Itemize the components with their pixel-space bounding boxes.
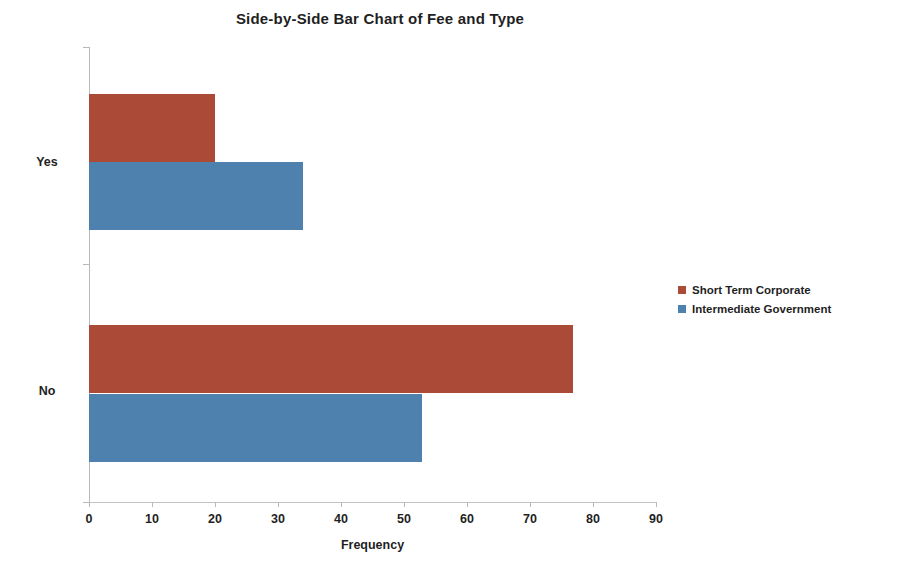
legend: Short Term Corporate Intermediate Govern… bbox=[678, 284, 831, 322]
chart-title: Side-by-Side Bar Chart of Fee and Type bbox=[0, 10, 760, 27]
bar-group-yes bbox=[89, 47, 655, 230]
x-axis-tick-label: 90 bbox=[636, 512, 676, 526]
x-axis-tick bbox=[152, 502, 153, 507]
x-axis-tick bbox=[404, 502, 405, 507]
bar-short-term-corporate-no[interactable] bbox=[89, 325, 573, 393]
bar-intermediate-government-yes[interactable] bbox=[89, 162, 303, 230]
x-axis-tick bbox=[89, 502, 90, 507]
legend-label: Intermediate Government bbox=[692, 303, 831, 315]
x-axis-tick bbox=[656, 502, 657, 507]
x-axis-tick-label: 80 bbox=[573, 512, 613, 526]
x-axis-tick bbox=[593, 502, 594, 507]
x-axis-line bbox=[89, 502, 656, 503]
x-axis-tick bbox=[278, 502, 279, 507]
x-axis-tick bbox=[530, 502, 531, 507]
x-axis-tick-label: 10 bbox=[132, 512, 172, 526]
legend-label: Short Term Corporate bbox=[692, 284, 811, 296]
x-axis-tick-label: 30 bbox=[258, 512, 298, 526]
x-axis-tick-label: 50 bbox=[384, 512, 424, 526]
x-axis-tick-label: 70 bbox=[510, 512, 550, 526]
x-axis-tick-label: 20 bbox=[195, 512, 235, 526]
bar-group-no bbox=[89, 278, 655, 462]
x-axis-title: Frequency bbox=[89, 538, 656, 552]
plot-area bbox=[89, 47, 655, 502]
legend-swatch-icon bbox=[678, 305, 686, 313]
legend-item-intermediate-government[interactable]: Intermediate Government bbox=[678, 303, 831, 315]
x-axis-tick bbox=[341, 502, 342, 507]
y-axis-label-no: No bbox=[12, 384, 82, 398]
y-axis-label-yes: Yes bbox=[12, 155, 82, 169]
x-axis-tick bbox=[215, 502, 216, 507]
x-axis-tick-label: 40 bbox=[321, 512, 361, 526]
x-axis-tick-label: 0 bbox=[69, 512, 109, 526]
legend-item-short-term-corporate[interactable]: Short Term Corporate bbox=[678, 284, 831, 296]
bar-intermediate-government-no[interactable] bbox=[89, 394, 422, 462]
bar-short-term-corporate-yes[interactable] bbox=[89, 94, 215, 162]
x-axis-tick-label: 60 bbox=[447, 512, 487, 526]
legend-swatch-icon bbox=[678, 286, 686, 294]
x-axis-tick bbox=[467, 502, 468, 507]
